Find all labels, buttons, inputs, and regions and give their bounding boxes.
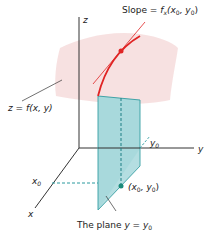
z-axis-label: z (82, 15, 88, 25)
point-x0-y0 (119, 184, 124, 189)
plane-label: The plane y = y0 (76, 220, 152, 231)
plane-pointer (106, 196, 116, 211)
slope-label: Slope = fx(x0, y0) (122, 5, 198, 16)
x-axis (35, 148, 79, 208)
y0-label: y0 (149, 138, 159, 149)
tangent-point (119, 49, 124, 54)
x-axis-label: x (27, 209, 34, 219)
x0-label: x0 (31, 176, 41, 187)
partial-derivative-diagram: Slope = fx(x0, y0) z z = f(x, y) y y0 x0… (0, 0, 216, 236)
surface-z-f-xy (55, 33, 178, 104)
y-axis-label: y (197, 144, 204, 154)
surface-label: z = f(x, y) (7, 103, 53, 113)
plane-outline (98, 96, 140, 210)
point-label: (x0, y0) (128, 182, 159, 193)
